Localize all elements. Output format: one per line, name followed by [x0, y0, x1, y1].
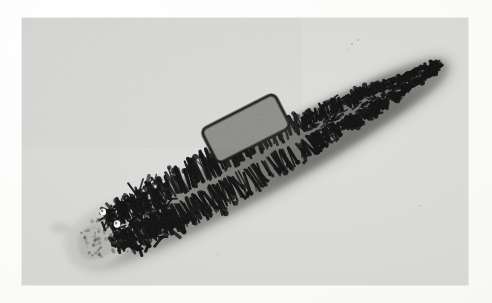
film-grain-screen — [22, 18, 302, 148]
photographic-plate-page — [0, 0, 492, 303]
photograph-plate — [22, 18, 468, 285]
